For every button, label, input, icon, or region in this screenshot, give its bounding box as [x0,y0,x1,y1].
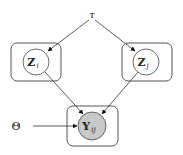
edge-tau-to-z-i [48,20,89,51]
graphical-model-diagram: τ Θ Zi Zj Yij [0,0,183,155]
edge-z-j-to-y-ij [102,72,138,114]
tau-label: τ [89,9,95,20]
z-i-subscript: i [36,62,38,70]
edge-tau-to-z-j [95,20,135,51]
z-i-symbol: Z [27,56,35,69]
edge-z-i-to-y-ij [45,72,83,114]
theta-label: Θ [11,120,20,133]
y-ij-symbol: Y [81,120,90,133]
z-j-symbol: Z [137,56,145,69]
